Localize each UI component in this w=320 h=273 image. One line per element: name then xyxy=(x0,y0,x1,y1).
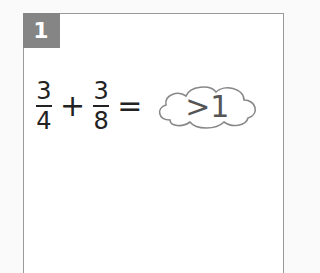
equals-sign: = xyxy=(117,91,142,121)
exercise-number-badge: 1 xyxy=(23,13,60,48)
numerator: 3 xyxy=(94,79,109,103)
answer-text: >1 xyxy=(152,80,262,132)
denominator: 4 xyxy=(36,109,51,133)
denominator: 8 xyxy=(94,109,109,133)
equation: 3 4 + 3 8 = >1 xyxy=(36,76,262,136)
exercise-card: 1 3 4 + 3 8 = >1 xyxy=(23,13,284,273)
answer-cloud: >1 xyxy=(152,80,262,132)
fraction-1: 3 4 xyxy=(36,79,52,133)
numerator: 3 xyxy=(36,79,51,103)
fraction-2: 3 8 xyxy=(93,79,109,133)
plus-operator: + xyxy=(60,91,85,121)
